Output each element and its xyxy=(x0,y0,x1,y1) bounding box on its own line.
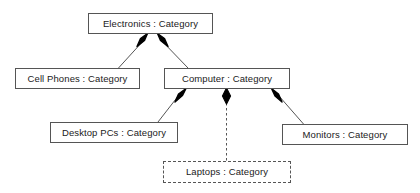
node-cell-phones[interactable]: Cell Phones : Category xyxy=(15,68,140,89)
composition-diamond-computer-laptops xyxy=(223,88,231,104)
node-desktop-pcs-label: Desktop PCs : Category xyxy=(58,128,170,138)
node-desktop-pcs[interactable]: Desktop PCs : Category xyxy=(50,122,178,143)
composition-diamond-computer-monitors xyxy=(272,89,283,103)
composition-diamond-computer-desktoppcs xyxy=(175,89,186,103)
node-laptops-label: Laptops : Category xyxy=(182,167,272,177)
composition-diamond-electronics-computer xyxy=(158,34,169,47)
node-laptops[interactable]: Laptops : Category xyxy=(163,161,291,183)
node-computer[interactable]: Computer : Category xyxy=(164,68,290,89)
edge-line-computer-monitors xyxy=(279,96,304,124)
node-monitors[interactable]: Monitors : Category xyxy=(282,124,408,145)
composition-diamond-electronics-cellphones xyxy=(137,34,148,47)
node-cell-phones-label: Cell Phones : Category xyxy=(24,74,132,84)
uml-composition-diagram: Electronics : Category Cell Phones : Cat… xyxy=(0,0,420,193)
node-electronics[interactable]: Electronics : Category xyxy=(88,13,213,34)
node-electronics-label: Electronics : Category xyxy=(99,19,202,29)
node-monitors-label: Monitors : Category xyxy=(299,130,392,140)
node-computer-label: Computer : Category xyxy=(178,74,276,84)
